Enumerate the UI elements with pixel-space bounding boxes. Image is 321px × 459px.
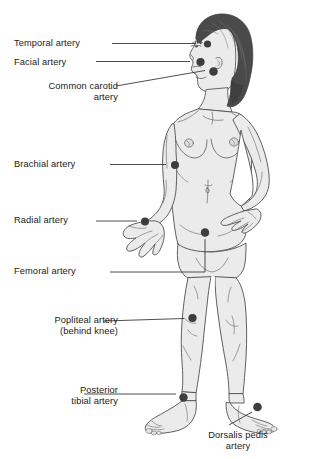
artery-label-radial: Radial artery [14,215,68,226]
pulse-point-marker-femoral[interactable] [201,228,209,236]
pulse-point-marker-radial[interactable] [141,218,149,226]
artery-label-dorsalis: Dorsalis pedis artery [178,430,298,452]
pulse-point-marker-carotid[interactable] [209,67,218,76]
pulse-point-marker-facial[interactable] [196,58,204,66]
pulse-point-marker-popliteal[interactable] [188,314,196,322]
artery-label-temporal: Temporal artery [14,38,80,49]
leader-line-carotid [116,71,205,87]
arterial-pulse-points-diagram: Temporal arteryFacial arteryCommon carot… [0,0,321,459]
artery-label-carotid: Common carotid artery [14,81,118,103]
pulse-point-marker-dorsalis[interactable] [253,403,262,412]
artery-label-popliteal: Popliteal artery (behind knee) [14,315,118,337]
artery-label-facial: Facial artery [14,57,66,68]
pulse-point-marker-temporal[interactable] [204,40,211,47]
artery-label-tibial: Posterior tibial artery [14,385,118,407]
artery-label-brachial: Brachial artery [14,159,75,170]
pulse-point-marker-tibial[interactable] [179,393,187,401]
pulse-point-marker-brachial[interactable] [171,161,179,169]
artery-label-femoral: Femoral artery [14,266,76,277]
